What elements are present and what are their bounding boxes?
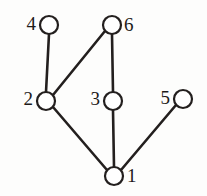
node-6: [103, 16, 121, 34]
node-label-6: 6: [124, 14, 134, 35]
node-label-2: 2: [24, 88, 34, 109]
edge-3-1: [113, 110, 114, 167]
graph-diagram: 123456: [0, 0, 207, 196]
node-5: [174, 90, 192, 108]
edge-5-1: [121, 105, 176, 170]
edge-4-2: [46, 34, 49, 92]
node-label-4: 4: [27, 13, 37, 34]
edge-6-3: [112, 34, 113, 92]
edge-6-2: [53, 31, 105, 95]
node-label-1: 1: [127, 165, 137, 186]
graph-canvas: 123456: [0, 0, 207, 196]
node-1: [105, 167, 123, 185]
node-4: [40, 16, 58, 34]
node-2: [37, 92, 55, 110]
edge-2-1: [53, 107, 107, 170]
node-label-3: 3: [91, 88, 101, 109]
node-label-5: 5: [161, 87, 171, 108]
node-3: [104, 92, 122, 110]
